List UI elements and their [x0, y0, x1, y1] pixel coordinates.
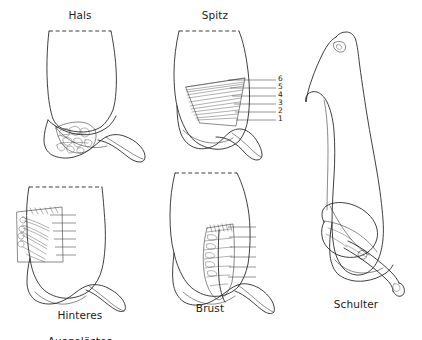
brust-brisket-divider: [218, 230, 225, 302]
spitz-band-line-4: [189, 94, 242, 102]
spitz-number-1: 1: [278, 115, 283, 123]
schulter-top-notch: [333, 42, 345, 53]
brust-rib-knob-4: [206, 262, 215, 267]
schulter-flank-crease: [335, 260, 383, 273]
spitz-band-line-1: [197, 118, 237, 120]
panel-hinteres-caption-line-1: Hinteres: [15, 309, 145, 322]
panel-hinteres-ausgeloestes: 6 5 4 3 2 1 Hinteres Ausgelöstes: [0, 170, 160, 340]
spitz-hatch-3: [188, 90, 243, 98]
hals-vertebrae-group: [56, 122, 96, 153]
spitz-band-line-5: [187, 86, 244, 95]
hals-shank-line: [106, 137, 143, 159]
hinteres-rib-5: [23, 247, 45, 259]
hinteres-hatch-top-2: [35, 208, 38, 214]
hinteres-rib-head-4: [18, 241, 24, 247]
panel-hinteres-caption: Hinteres Ausgelöstes: [15, 296, 145, 340]
spitz-banded-region: [186, 78, 245, 126]
panel-brust: 6 5 4 3 2 1 Brust: [150, 170, 310, 340]
hals-vertebra-7: [57, 144, 65, 152]
hinteres-rib-6: [26, 254, 45, 262]
panel-hinteres-caption-line-2: Ausgelöstes: [15, 335, 145, 340]
panel-hals-drawing: [0, 0, 160, 170]
panel-schulter-caption: Schulter: [306, 298, 406, 311]
panel-schulter: Schulter: [290, 0, 422, 340]
schulter-top-eye: [336, 45, 342, 50]
schulter-scapula-inner-1: [328, 228, 352, 240]
brust-hatch-6: [230, 224, 232, 231]
hals-vertebra-9: [77, 148, 84, 154]
spitz-leader-lines: [228, 80, 276, 120]
brust-hatch-1: [210, 225, 212, 232]
spitz-band-line-3: [191, 102, 240, 109]
spitz-lower-silhouette: [177, 106, 262, 160]
hinteres-rib-head-3: [18, 233, 24, 239]
hals-outline: [47, 31, 116, 132]
schulter-humerus-knob-1: [393, 284, 400, 292]
panel-hals: Hals: [0, 0, 160, 170]
spitz-band-line-6: [186, 78, 245, 87]
brust-rib-knob-2: [207, 244, 216, 249]
brust-leader-lines: [228, 227, 256, 277]
hinteres-rib-4: [22, 240, 46, 254]
spitz-hatch-6: [196, 114, 238, 118]
panel-schulter-drawing: [290, 0, 422, 340]
schulter-contour-line: [324, 100, 328, 210]
schulter-scapula-spine: [330, 206, 369, 255]
hinteres-outline: [27, 187, 106, 298]
hinteres-rib-head-2: [19, 226, 25, 232]
brust-rib-knob-3: [206, 253, 215, 258]
hinteres-hatch-top-6: [55, 207, 58, 213]
hinteres-rib-1: [24, 218, 49, 228]
panel-hals-caption: Hals: [30, 9, 130, 22]
panel-spitz: Spitz: [150, 0, 310, 170]
schulter-scapula-inner-2: [326, 234, 347, 247]
hinteres-hatch-top-1: [30, 208, 33, 214]
hals-vertebra-3: [81, 128, 90, 137]
spitz-outline: [174, 31, 250, 149]
spitz-hatch-5: [192, 106, 240, 112]
schulter-humerus-group: [344, 241, 404, 296]
spitz-hatch-1: [186, 82, 244, 90]
brust-rib-knob-5: [208, 271, 217, 276]
brust-rib-knob-1: [208, 235, 217, 240]
schulter-outline: [306, 32, 384, 275]
meat-cut-diagram: Hals: [0, 0, 422, 340]
panel-spitz-drawing: [150, 0, 310, 170]
brust-rib-extra: [210, 284, 228, 286]
spitz-hatch-4: [190, 98, 241, 106]
hals-vertebra-6: [85, 140, 92, 147]
panel-spitz-caption: Spitz: [165, 9, 265, 22]
panel-brust-caption: Brust: [160, 302, 260, 315]
hinteres-rib-head-1: [20, 217, 26, 223]
